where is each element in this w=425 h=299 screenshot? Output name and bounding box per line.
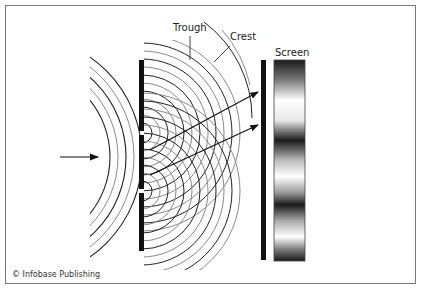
screen-edge bbox=[261, 60, 266, 260]
crest-label: Crest bbox=[230, 31, 256, 42]
double-slit-barrier bbox=[139, 60, 144, 251]
trough-label: Trough bbox=[172, 22, 207, 33]
screen-label: Screen bbox=[275, 47, 309, 58]
interference-screen bbox=[274, 60, 305, 261]
copyright-credit: © Infobase Publishing bbox=[12, 270, 100, 279]
double-slit-diagram: Trough Crest Screen bbox=[0, 0, 425, 299]
crest-leader-line bbox=[214, 46, 230, 62]
